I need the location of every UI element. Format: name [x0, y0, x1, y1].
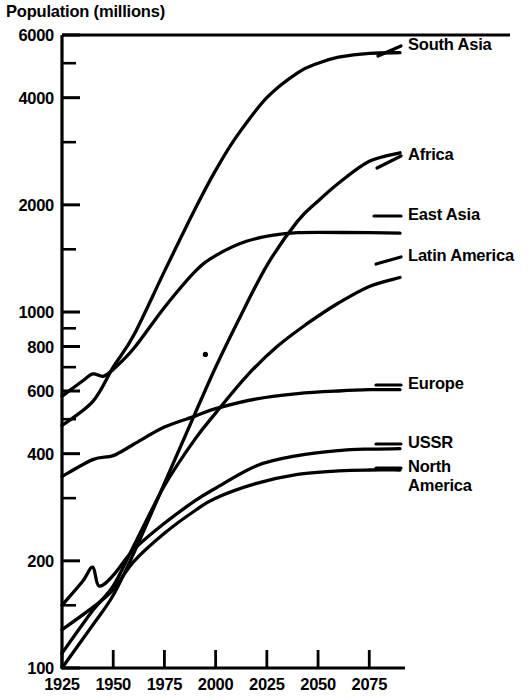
population-projection-chart: Population (millions) 600040002000100080…: [0, 0, 531, 700]
plot-area: [0, 0, 531, 700]
series-label-europe: Europe: [408, 374, 464, 393]
series-label-south-asia: South Asia: [408, 35, 492, 54]
y-tick-label: 6000: [18, 26, 54, 45]
x-tick-label: 1975: [147, 675, 183, 694]
leader-line-latin-america: [376, 257, 401, 264]
series-label-north-america: North America: [408, 457, 472, 495]
y-tick-label: 400: [27, 444, 54, 463]
y-tick-label: 600: [27, 381, 54, 400]
stray-dot: [203, 352, 208, 357]
series-line-north-america: [62, 470, 400, 630]
series-line-east-asia: [62, 232, 400, 396]
series-label-ussr: USSR: [408, 433, 453, 452]
series-label-africa: Africa: [408, 145, 454, 164]
series-line-europe: [62, 390, 400, 477]
series-label-east-asia: East Asia: [408, 205, 480, 224]
y-tick-label: 1000: [18, 303, 54, 322]
leader-line-south-asia: [378, 46, 401, 56]
y-tick-label: 2000: [18, 195, 54, 214]
series-label-latin-america: Latin America: [408, 246, 514, 265]
y-tick-label: 800: [27, 337, 54, 356]
x-tick-label: 2050: [300, 675, 336, 694]
x-tick-label: 2025: [249, 675, 285, 694]
x-tick-label: 1950: [95, 675, 131, 694]
x-tick-label: 1925: [44, 675, 80, 694]
x-tick-label: 2000: [198, 675, 234, 694]
series-line-ussr: [62, 449, 400, 606]
x-tick-label: 2075: [352, 675, 388, 694]
y-tick-label: 200: [27, 551, 54, 570]
y-tick-label: 4000: [18, 88, 54, 107]
